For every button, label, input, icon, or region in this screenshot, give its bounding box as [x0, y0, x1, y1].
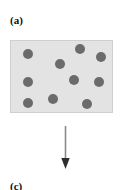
- figure-panel-a: (a) (c): [0, 0, 129, 190]
- particle-dot: [23, 49, 33, 59]
- particle-dot: [23, 98, 33, 108]
- particle-dot: [55, 59, 65, 69]
- panel-label-a: (a): [10, 15, 23, 26]
- particle-dot: [75, 44, 85, 54]
- particle-dot: [96, 52, 106, 62]
- particle-dot: [69, 75, 79, 85]
- panel-label-c: (c): [10, 181, 22, 190]
- particle-dot: [82, 99, 92, 109]
- particle-dot: [48, 94, 58, 104]
- downward-arrow-icon: [60, 126, 71, 170]
- particle-dot: [23, 77, 33, 87]
- particle-dot: [94, 77, 104, 87]
- particle-dispersion-box: [10, 40, 113, 113]
